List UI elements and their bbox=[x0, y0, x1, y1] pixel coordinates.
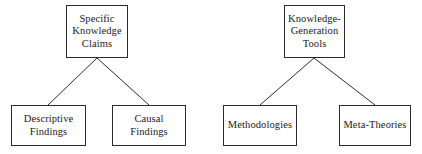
connector-right-root-to-methodologies bbox=[260, 58, 314, 105]
node-label: Methodologies bbox=[225, 119, 295, 131]
node-label: Causal Findings bbox=[127, 113, 171, 138]
node-label: Specific Knowledge Claims bbox=[69, 13, 124, 50]
connector-left-root-to-causal bbox=[97, 58, 149, 105]
node-specific-knowledge-claims: Specific Knowledge Claims bbox=[66, 5, 128, 58]
node-label: Descriptive Findings bbox=[21, 113, 77, 138]
node-meta-theories: Meta-Theories bbox=[339, 105, 411, 146]
node-causal-findings: Causal Findings bbox=[112, 105, 186, 146]
connector-left-root-to-descriptive bbox=[48, 58, 97, 105]
node-methodologies: Methodologies bbox=[223, 105, 297, 146]
node-label: Meta-Theories bbox=[340, 119, 409, 131]
node-descriptive-findings: Descriptive Findings bbox=[11, 105, 86, 146]
node-knowledge-generation-tools: Knowledge- Generation Tools bbox=[284, 5, 345, 58]
diagram-canvas: Specific Knowledge Claims Descriptive Fi… bbox=[0, 0, 422, 154]
node-label: Knowledge- Generation Tools bbox=[285, 13, 344, 50]
connector-right-root-to-meta-theories bbox=[314, 58, 375, 105]
